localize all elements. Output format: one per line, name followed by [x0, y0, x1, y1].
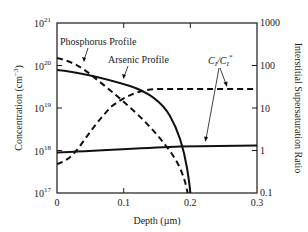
phosphorus-profile-label: Phosphorus Profile [60, 36, 137, 47]
svg-text:0.3: 0.3 [251, 197, 264, 208]
right-y-tick-labels: 1000 100 10 1 0.1 [260, 17, 280, 198]
svg-text:1021: 1021 [34, 16, 52, 29]
svg-text:100: 100 [260, 60, 275, 71]
right-y-axis-title: Interstitial Supersaturation Ratio [293, 43, 304, 174]
svg-text:1019: 1019 [34, 101, 52, 114]
left-y-axis-title: Concentration (cm−3) [12, 65, 25, 151]
right-y-ticks [252, 66, 257, 151]
chart: 1021 1020 1019 1018 1017 1000 100 10 1 0… [0, 0, 308, 232]
x-ticks [124, 23, 191, 193]
ci-ratio-arrow-solid-head [204, 137, 208, 143]
ci-ratio-label: CI/CI* [208, 53, 233, 68]
svg-text:1000: 1000 [260, 17, 280, 28]
ci-ratio-arrow-dashed-head [224, 82, 228, 88]
arsenic-profile-label: Arsenic Profile [108, 54, 169, 65]
svg-text:10: 10 [260, 103, 270, 114]
left-y-tick-labels: 1021 1020 1019 1018 1017 [34, 16, 52, 199]
svg-text:0.1: 0.1 [117, 197, 130, 208]
x-axis-title: Depth (µm) [133, 215, 180, 227]
ci-ratio-arrow-dashed [220, 68, 226, 84]
phosphorus-arrow-head [82, 57, 86, 62]
ci-ratio-arrow-solid [206, 68, 219, 139]
svg-text:1020: 1020 [34, 59, 52, 72]
ci-ratio-arsenic-line [57, 146, 257, 153]
arsenic-arrow-head [122, 74, 126, 79]
x-tick-labels: 0 0.1 0.2 0.3 [55, 197, 264, 208]
svg-text:1018: 1018 [34, 144, 52, 157]
left-y-ticks [57, 66, 62, 151]
svg-text:1017: 1017 [34, 186, 52, 199]
plot-frame [57, 23, 257, 193]
svg-text:0.2: 0.2 [184, 197, 197, 208]
svg-text:1: 1 [260, 145, 265, 156]
phosphorus-profile-line [57, 58, 188, 195]
svg-text:0: 0 [55, 197, 60, 208]
